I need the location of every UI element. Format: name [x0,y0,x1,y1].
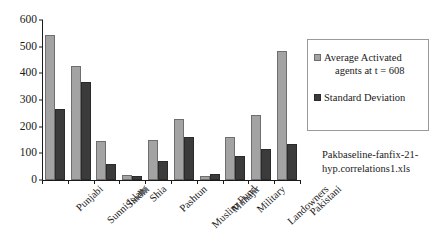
bar-series-0 [122,175,132,180]
bar-group [119,20,145,180]
bar-series-0 [96,141,106,180]
legend-label-series-0-line2: agents at t = 608 [324,64,405,77]
legend-label-series-1-line1: Standard Deviation [324,92,405,103]
x-axis-tick-mark [300,180,301,184]
bar-series-1 [81,82,91,180]
bar-series-0 [174,119,184,180]
bar-group [248,20,274,180]
bar-series-0 [277,51,287,180]
x-axis-labels: PunjabiSunni IslamSindhiShiaPashtunMusli… [42,184,300,239]
bar-group [68,20,94,180]
bar-chart: 0100200300400500600 PunjabiSunni IslamSi… [0,0,434,239]
bar-group [145,20,171,180]
legend-label-series-1: Standard Deviation [324,91,405,104]
bar-series-1 [235,156,245,180]
bar-series-1 [132,176,142,180]
legend-label-series-0: Average Activated agents at t = 608 [324,51,405,78]
x-axis-label: Pashtun [178,184,209,214]
bar-series-1 [106,164,116,180]
bar-series-1 [210,174,220,180]
x-axis-label: Punjabi [74,184,105,214]
bar-series-0 [251,115,261,180]
x-axis-label: Military [256,184,288,215]
bar-series-0 [225,137,235,180]
bar-series-0 [200,176,210,180]
bar-group [197,20,223,180]
bar-group [42,20,68,180]
bar-group [94,20,120,180]
annotation-line-1: Pakbaseline-fanfix-21- [322,148,434,162]
bar-series-0 [148,140,158,180]
legend-label-series-0-line1: Average Activated [324,52,402,63]
plot-area: 0100200300400500600 [42,20,300,180]
chart-legend: Average Activated agents at t = 608 Stan… [307,39,429,131]
legend-swatch-icon-series-1 [314,94,321,101]
bar-series-0 [45,35,55,180]
bar-series-1 [184,137,194,180]
legend-entry-standard-deviation: Standard Deviation [314,91,422,104]
bar-group [223,20,249,180]
annotation-line-2: hyp.correlations1.xls [322,162,434,176]
chart-annotation: Pakbaseline-fanfix-21- hyp.correlations1… [322,148,434,176]
bar-series-1 [261,149,271,180]
legend-swatch-icon-series-0 [314,54,321,61]
bar-series-0 [71,66,81,180]
bar-groups [42,20,300,180]
x-axis-label: Shia [148,184,169,204]
bar-series-1 [287,144,297,180]
legend-entry-average-activated: Average Activated agents at t = 608 [314,51,422,78]
bar-group [274,20,300,180]
bar-series-1 [158,161,168,180]
bar-group [171,20,197,180]
bar-series-1 [55,109,65,180]
